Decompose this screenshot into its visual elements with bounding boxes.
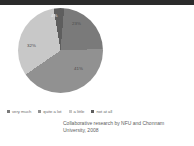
legend-item-very-much: very much — [7, 109, 31, 114]
legend-label: very much — [12, 109, 31, 114]
caption-line-1: Collaborative research by NFU and Chonna… — [63, 120, 188, 127]
legend-item-a-little: a little — [69, 109, 85, 114]
source-caption: Collaborative research by NFU and Chonna… — [63, 120, 188, 134]
legend-swatch-icon — [38, 110, 41, 113]
legend-item-not-at-all: not at all — [91, 109, 112, 114]
legend-swatch-icon — [69, 110, 72, 113]
caption-line-2: University, 2008 — [63, 127, 188, 134]
legend-swatch-icon — [7, 110, 10, 113]
slice-label-not-at-all: 4% — [51, 13, 57, 18]
slice-label-a-little: 32% — [27, 43, 36, 48]
legend-label: quite a lot — [43, 109, 61, 114]
legend-swatch-icon — [91, 110, 94, 113]
pie-chart: 23% 41% 32% 4% — [0, 5, 194, 105]
legend-item-quite-a-lot: quite a lot — [38, 109, 61, 114]
slice-label-very-much: 23% — [72, 21, 81, 26]
chart-legend: very much quite a lot a little not at al… — [7, 107, 187, 116]
slice-label-quite-a-lot: 41% — [74, 66, 83, 71]
slide-canvas: 23% 41% 32% 4% very much quite a lot a l… — [0, 0, 194, 146]
pie-slices — [18, 8, 103, 93]
pie-graphic: 23% 41% 32% 4% — [18, 8, 103, 93]
legend-label: not at all — [96, 109, 112, 114]
legend-label: a little — [74, 109, 85, 114]
